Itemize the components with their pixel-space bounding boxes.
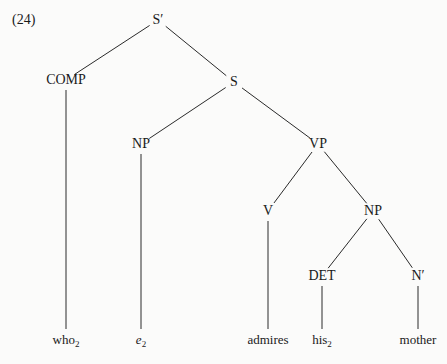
node-s-bar: S′: [153, 13, 164, 27]
branch-line: [242, 88, 310, 138]
node-np-subject: NP: [132, 137, 150, 151]
node-s: S: [230, 75, 238, 89]
node-n-bar: N′: [411, 269, 424, 283]
tree-branches: [0, 0, 447, 364]
node-v: V: [263, 204, 273, 218]
leaf-word: his2: [312, 333, 332, 346]
leaf-word: e2: [136, 333, 146, 346]
leaf-word: who2: [53, 333, 80, 346]
node-vp: VP: [309, 137, 327, 151]
branch-line: [324, 152, 366, 204]
leaf-word: admires: [247, 333, 288, 346]
node-comp: COMP: [46, 73, 86, 87]
branch-line: [379, 219, 413, 268]
branch-line: [274, 152, 312, 203]
branch-line: [74, 25, 149, 74]
branch-line: [166, 26, 227, 75]
branch-line: [328, 219, 367, 268]
node-det: DET: [308, 269, 335, 283]
leaf-word: mother: [400, 333, 437, 346]
branch-line: [149, 88, 225, 139]
node-np-object: NP: [364, 204, 382, 218]
